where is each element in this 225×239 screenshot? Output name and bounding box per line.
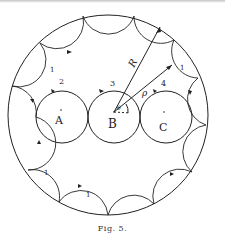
arrowheads [30,27,192,188]
label-rho: ρ [141,88,148,98]
angle-arc [126,104,128,113]
center-dot-b [113,111,115,113]
label-4: 4 [161,79,166,88]
label-b: B [108,117,117,131]
center-dot-c [163,111,165,113]
label-3: 3 [110,79,115,88]
outer-circle [8,15,208,215]
label-theta: θ [117,104,121,111]
radius-r-line [114,27,160,112]
label-1-right-top: 1 [180,64,184,72]
label-1-left-bottom: 1 [44,169,48,177]
label-2: 2 [59,77,64,86]
circle-c [140,91,192,143]
label-c: C [159,121,167,134]
figure-caption: Fig. 5. [0,224,225,233]
diagram-figure: A B C R ρ θ 2 3 4 1 1 1 1 [0,0,225,239]
label-a: A [54,114,64,127]
label-1-left-top: 1 [50,66,54,74]
label-1-bottom: 1 [86,191,90,199]
skipping-orbit-arcs [12,16,206,215]
center-dot-a [60,109,62,111]
